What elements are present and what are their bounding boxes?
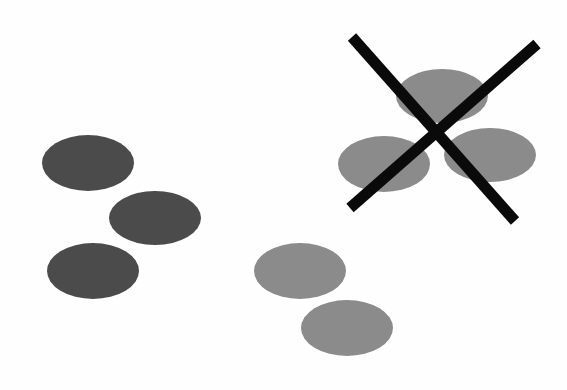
dark-ellipse-group bbox=[42, 135, 201, 299]
dark-ellipse-2 bbox=[109, 191, 201, 245]
ellipse-illustration bbox=[0, 0, 567, 390]
medium-ellipse-pair bbox=[254, 243, 393, 356]
illustration-canvas bbox=[0, 0, 567, 390]
medium-ellipse-2 bbox=[301, 300, 393, 356]
x-mark-icon bbox=[350, 37, 537, 221]
crossed-out-ellipse-group bbox=[338, 37, 537, 221]
dark-ellipse-1 bbox=[42, 135, 134, 191]
dark-ellipse-3 bbox=[47, 243, 139, 299]
medium-ellipse-1 bbox=[254, 243, 346, 299]
